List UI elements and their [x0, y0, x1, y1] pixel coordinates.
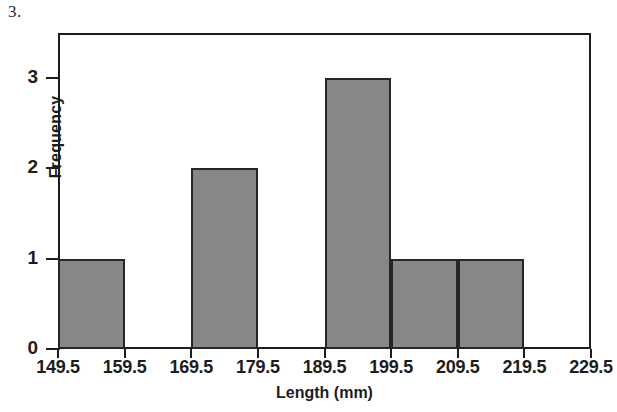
- histogram-bar: [325, 78, 392, 349]
- y-axis-label: Frequency: [47, 57, 65, 217]
- y-axis-tick-label: 0: [10, 337, 38, 359]
- x-axis-tick-label: 229.5: [546, 357, 617, 378]
- y-axis-tick-label: 2: [10, 156, 38, 178]
- histogram-figure: 3. 0123 Frequency 149.5159.5169.5179.518…: [0, 0, 617, 412]
- y-axis-tick-mark: [46, 258, 60, 260]
- question-number: 3.: [8, 2, 22, 22]
- y-axis-tick-label: 1: [10, 247, 38, 269]
- histogram-bar: [191, 168, 258, 349]
- bars-layer: [58, 33, 591, 349]
- histogram-bar: [458, 259, 525, 349]
- y-axis-tick-label: 3: [10, 66, 38, 88]
- histogram-bar: [391, 259, 458, 349]
- histogram-bar: [58, 259, 125, 349]
- x-axis-label: Length (mm): [58, 384, 591, 402]
